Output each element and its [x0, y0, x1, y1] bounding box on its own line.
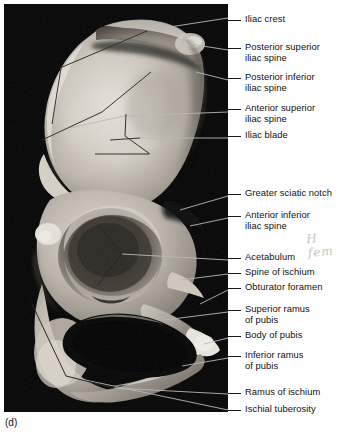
label-inferior-ramus-of-pubis: Inferior ramus of pubis [228, 350, 304, 371]
photo-grain [4, 4, 228, 412]
label-text: Iliac crest [245, 14, 285, 25]
label-text: Ramus of ischium [245, 387, 320, 398]
label-spine-of-ischium: Spine of ischium [228, 267, 315, 278]
label-column: Iliac crest Posterior superior iliac spi… [228, 0, 348, 434]
label-text: Obturator foramen [245, 282, 322, 293]
label-obturator-foramen: Obturator foramen [228, 282, 322, 293]
label-text: Greater sciatic notch [245, 188, 332, 199]
label-anterior-superior-iliac-spine: Anterior superior iliac spine [228, 103, 315, 124]
anatomy-figure: Iliac crest Posterior superior iliac spi… [0, 0, 348, 434]
leader-dash-icon [228, 288, 241, 289]
label-posterior-superior-iliac-spine: Posterior superior iliac spine [228, 42, 320, 63]
label-posterior-inferior-iliac-spine: Posterior inferior iliac spine [228, 72, 315, 93]
label-text: Ischial tuberosity [245, 404, 316, 415]
leader-dash-icon [228, 48, 241, 49]
label-text: Iliac blade [245, 130, 288, 141]
label-iliac-crest: Iliac crest [228, 14, 285, 25]
leader-dash-icon [228, 258, 241, 259]
label-anterior-inferior-iliac-spine: Anterior inferior iliac spine [228, 210, 310, 231]
leader-dash-icon [228, 194, 241, 195]
leader-dash-icon [228, 310, 241, 311]
label-text: Superior ramus of pubis [245, 304, 310, 325]
label-acetabulum: Acetabulum [228, 252, 295, 263]
label-text: Posterior inferior iliac spine [245, 72, 315, 93]
hip-bone-photograph [4, 4, 228, 412]
leader-dash-icon [228, 273, 241, 274]
label-text: Acetabulum [245, 252, 295, 263]
bone-photograph-panel [4, 4, 228, 412]
label-text: Inferior ramus of pubis [245, 350, 304, 371]
label-text: Anterior superior iliac spine [245, 103, 315, 124]
label-iliac-blade: Iliac blade [228, 130, 288, 141]
leader-dash-icon [228, 136, 241, 137]
leader-dash-icon [228, 393, 241, 394]
label-ischial-tuberosity: Ischial tuberosity [228, 404, 316, 415]
label-text: Posterior superior iliac spine [245, 42, 320, 63]
leader-dash-icon [228, 20, 241, 21]
leader-dash-icon [228, 356, 241, 357]
label-superior-ramus-of-pubis: Superior ramus of pubis [228, 304, 310, 325]
leader-dash-icon [228, 410, 241, 411]
figure-panel-letter: (d) [5, 417, 17, 428]
leader-dash-icon [228, 78, 241, 79]
leader-dash-icon [228, 216, 241, 217]
label-body-of-pubis: Body of pubis [228, 330, 302, 341]
label-ramus-of-ischium: Ramus of ischium [228, 387, 320, 398]
label-greater-sciatic-notch: Greater sciatic notch [228, 188, 332, 199]
label-text: Anterior inferior iliac spine [245, 210, 310, 231]
leader-dash-icon [228, 109, 241, 110]
leader-dash-icon [228, 336, 241, 337]
label-text: Body of pubis [245, 330, 302, 341]
label-text: Spine of ischium [245, 267, 315, 278]
